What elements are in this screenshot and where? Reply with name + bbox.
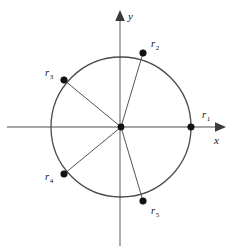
root-label-r_5: r5 <box>151 205 160 219</box>
x-axis-label: x <box>213 134 219 146</box>
x-axis-arrowhead <box>215 122 226 132</box>
root-point-r_5 <box>140 198 147 205</box>
origin-dot <box>118 124 125 131</box>
radius-line-r_3 <box>64 80 121 127</box>
root-point-r_1 <box>188 124 195 131</box>
y-axis-label: y <box>127 10 133 22</box>
radius-line-r_2 <box>121 53 143 127</box>
root-label-r_3: r3 <box>45 67 54 81</box>
root-points-group: r1r2r3r4r5 <box>45 38 211 219</box>
root-label-r_1: r1 <box>202 109 211 123</box>
radius-line-r_4 <box>64 127 121 174</box>
root-point-r_2 <box>140 50 147 57</box>
root-point-r_4 <box>61 171 68 178</box>
root-label-r_2: r2 <box>151 38 160 52</box>
roots-of-unity-diagram: x y r1r2r3r4r5 <box>0 0 240 251</box>
root-label-r_4: r4 <box>45 171 54 185</box>
root-point-r_3 <box>61 77 68 84</box>
y-axis-arrowhead <box>115 10 125 21</box>
radius-line-r_5 <box>121 127 143 201</box>
